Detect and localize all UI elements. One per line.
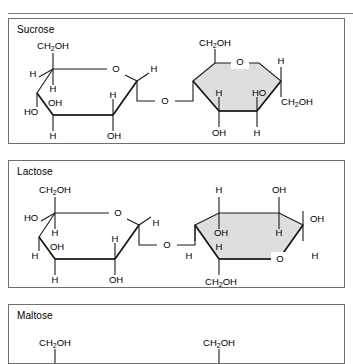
lactose-glucose-inner-h-right: H — [276, 228, 283, 238]
maltose-bond-graph — [9, 305, 344, 363]
sucrose-glucose-h-upper-right: H — [151, 64, 158, 74]
lactose-galactose-right-h: H — [153, 218, 160, 228]
sucrose-glucose-ho: HO — [24, 107, 38, 117]
lactose-structure: CH2OH O HO H OH H H OH H H O H OH OH OH … — [9, 161, 344, 287]
lactose-glucose-bottom-ch2oh: CH2OH — [205, 277, 237, 287]
lactose-glucose-right-oh: OH — [310, 214, 324, 224]
sucrose-glucose-inner-h: H — [50, 84, 57, 94]
sucrose-glucose-h-upper-left: H — [30, 69, 37, 79]
panel-lactose: Lactose — [8, 160, 345, 288]
fructose-ring-body — [193, 63, 281, 111]
lactose-glucose-inner-oh: OH — [214, 228, 228, 238]
sucrose-glucose-ring-oxygen: O — [112, 64, 119, 74]
sucrose-fructose-ch2oh-left: CH2OH — [199, 38, 231, 48]
sucrose-fructose-ch2oh-right: CH2OH — [281, 97, 313, 107]
lactose-galactose-bottom-h: H — [52, 275, 59, 285]
previous-panel-bottom-rule — [8, 13, 353, 14]
lactose-glucose-left-h: H — [186, 251, 193, 261]
sucrose-glucose-inner-right-h: H — [110, 90, 117, 100]
sucrose-glucose-bottom-h: H — [50, 131, 57, 141]
sucrose-bond-graph — [9, 19, 344, 143]
lactose-glucose-bottom-right-h: H — [312, 251, 319, 261]
lactose-glucose-top-right-oh: OH — [272, 185, 286, 195]
sucrose-fructose-bottom-h: H — [254, 128, 261, 138]
sucrose-glycosidic-oxygen: O — [161, 96, 168, 106]
sucrose-glucose-ch2oh: CH2OH — [37, 41, 69, 51]
lactose-galactose-ch2oh: CH2OH — [39, 185, 71, 195]
maltose-ring2-ch2oh: CH2OH — [203, 338, 235, 348]
lactose-galactose-inner-right-h: H — [112, 234, 119, 244]
sucrose-fructose-h-upper-right: H — [278, 56, 285, 66]
lactose-galactose-bottom-oh: OH — [109, 275, 123, 285]
lactose-glucose-top-left-h: H — [216, 185, 223, 195]
sucrose-fructose-ring-oxygen: O — [236, 57, 243, 67]
sucrose-fructose-inner-ho: HO — [252, 88, 266, 98]
sucrose-glucose-bottom-oh: OH — [107, 131, 121, 141]
panel-maltose: Maltose CH2OH CH2OH — [8, 304, 345, 364]
lactose-bond-graph — [9, 161, 344, 287]
lactose-glucose-ring-oxygen: O — [276, 254, 283, 264]
lactose-galactose-inner-h: H — [52, 228, 59, 238]
sucrose-structure: CH2OH O H H OH HO H OH H H O CH2OH O H H… — [9, 19, 344, 143]
lactose-glycosidic-oxygen: O — [163, 240, 170, 250]
lactose-galactose-inner-oh: OH — [50, 242, 64, 252]
sucrose-glucose-inner-oh: OH — [48, 98, 62, 108]
lactose-glucose-inner-h-left: H — [216, 242, 223, 252]
maltose-structure: CH2OH CH2OH — [9, 305, 344, 363]
lactose-galactose-ho: HO — [24, 213, 38, 223]
lactose-galactose-ring-oxygen: O — [114, 208, 121, 218]
maltose-ring1-ch2oh: CH2OH — [39, 338, 71, 348]
lactose-galactose-lower-left-h: H — [32, 251, 39, 261]
sucrose-fructose-bottom-oh: OH — [212, 128, 226, 138]
sucrose-fructose-inner-h: H — [216, 88, 223, 98]
panel-sucrose: Sucrose — [8, 18, 345, 144]
